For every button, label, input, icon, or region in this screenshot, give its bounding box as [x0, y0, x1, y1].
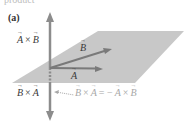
vec-a-symbol: A [17, 34, 23, 45]
cross-operator: × [81, 87, 91, 98]
vec-b-symbol: B [33, 34, 39, 45]
equals-negative: = − [97, 87, 115, 98]
vec-a-symbol: A [33, 87, 39, 98]
pointer-arrowhead-icon [54, 90, 59, 94]
vec-b-symbol: B [17, 87, 23, 98]
cross-operator: × [121, 87, 131, 98]
cross-operator: × [23, 34, 33, 45]
vec-a-symbol: A [71, 70, 77, 81]
axis-down-arrowhead-icon [46, 111, 54, 121]
vec-a-symbol: A [115, 87, 121, 98]
axis-up-arrowhead-icon [46, 12, 54, 22]
label-vector-b: B [80, 42, 86, 53]
vec-b-symbol: B [75, 87, 81, 98]
label-b-cross-a: B×A [17, 87, 39, 98]
equation-anticommutative: B×A= −A×B [75, 87, 137, 98]
vec-b-symbol: B [80, 42, 86, 53]
cross-operator: × [23, 87, 33, 98]
cross-product-diagram: product (a) A×B B A B×A B×A= −A×B [0, 0, 189, 124]
pointer-dotted [56, 92, 74, 95]
label-vector-a: A [71, 70, 77, 81]
vec-a-symbol: A [91, 87, 97, 98]
label-a-cross-b: A×B [17, 34, 39, 45]
diagram-graphics [0, 0, 189, 124]
vec-b-symbol: B [130, 87, 136, 98]
